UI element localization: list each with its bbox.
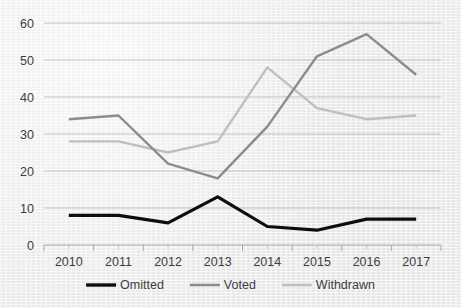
y-axis-tick-label: 30 <box>20 128 34 142</box>
legend-label-voted: Voted <box>224 278 256 292</box>
chart-legend: OmittedVotedWithdrawn <box>86 278 375 292</box>
x-axis <box>44 245 441 251</box>
x-axis-tick-label: 2014 <box>253 255 281 269</box>
x-axis-tick-label: 2013 <box>204 255 232 269</box>
y-axis-tick-label: 10 <box>20 202 34 216</box>
x-axis-tick-labels: 20102011201220132014201520162017 <box>55 255 430 269</box>
series-line-omitted <box>69 197 416 230</box>
y-axis-tick-label: 20 <box>20 165 34 179</box>
legend-label-withdrawn: Withdrawn <box>316 278 375 292</box>
y-axis-tick-label: 50 <box>20 54 34 68</box>
x-axis-tick-label: 2015 <box>303 255 331 269</box>
chart-canvas: 0102030405060 20102011201220132014201520… <box>0 0 461 308</box>
y-axis-tick-labels: 0102030405060 <box>20 17 34 253</box>
legend-label-omitted: Omitted <box>120 278 164 292</box>
data-series <box>69 34 416 230</box>
y-axis-tick-label: 60 <box>20 17 34 31</box>
x-axis-tick-label: 2011 <box>105 255 132 269</box>
y-axis-tick-label: 0 <box>27 239 34 253</box>
x-axis-tick-label: 2010 <box>55 255 83 269</box>
line-chart: 0102030405060 20102011201220132014201520… <box>0 0 461 308</box>
series-line-withdrawn <box>69 67 416 152</box>
x-axis-tick-label: 2017 <box>402 255 430 269</box>
x-axis-tick-label: 2016 <box>353 255 381 269</box>
x-axis-tick-label: 2012 <box>154 255 182 269</box>
y-axis-tick-label: 40 <box>20 91 34 105</box>
